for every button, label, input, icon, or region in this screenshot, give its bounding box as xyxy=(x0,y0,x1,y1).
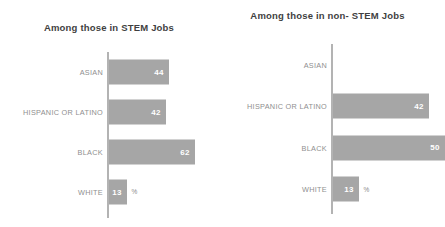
bar-value-label: 50 xyxy=(430,144,439,152)
chart-panel-non-stem: Among those in non- STEM Jobs ASIAN HISP… xyxy=(218,0,437,227)
bar-value-label: 62 xyxy=(180,148,189,156)
bar-container: 13 % xyxy=(109,180,138,205)
bar-row: HISPANIC OR LATINO 42 xyxy=(218,86,437,128)
bar-row: WHITE 13 % xyxy=(218,169,437,211)
category-label: HISPANIC OR LATINO xyxy=(228,102,327,111)
percent-suffix: % xyxy=(132,189,138,196)
bar: 42 xyxy=(333,94,429,119)
bar-value-label: 13 xyxy=(344,185,353,193)
bar-row: BLACK 62 xyxy=(0,132,218,172)
bar-value-label: 13 xyxy=(112,188,121,196)
category-label: WHITE xyxy=(0,188,103,197)
category-label: BLACK xyxy=(228,143,327,152)
chart-title-non-stem: Among those in non- STEM Jobs xyxy=(218,10,437,21)
bar: 50 xyxy=(333,135,445,160)
chart-title-stem: Among those in STEM Jobs xyxy=(0,22,218,33)
bar-container: 42 xyxy=(333,94,429,119)
bar-container: 62 xyxy=(109,140,195,165)
bar-value-label: 42 xyxy=(414,102,423,110)
bar-container: 42 xyxy=(109,100,166,125)
percent-suffix: % xyxy=(364,186,370,193)
category-label: HISPANIC OR LATINO xyxy=(0,108,103,117)
bar-value-label: 44 xyxy=(154,68,163,76)
bar-row: ASIAN xyxy=(218,44,437,86)
plot-area-non-stem: ASIAN HISPANIC OR LATINO 42 xyxy=(218,44,437,214)
bar: 13 xyxy=(333,177,359,202)
bar-container: 50 xyxy=(333,135,445,160)
bar-row: BLACK 50 xyxy=(218,127,437,169)
category-label: WHITE xyxy=(228,185,327,194)
bar: 62 xyxy=(109,140,195,165)
bar-container: 13 % xyxy=(333,177,370,202)
bar: 42 xyxy=(109,100,166,125)
plot-area-stem: ASIAN 44 HISPANIC OR LATINO 42 xyxy=(0,52,218,218)
bar-container: 44 xyxy=(109,60,169,85)
category-label: ASIAN xyxy=(228,60,327,69)
bar-row: HISPANIC OR LATINO 42 xyxy=(0,92,218,132)
category-label: BLACK xyxy=(0,148,103,157)
category-label: ASIAN xyxy=(0,68,103,77)
bar: 44 xyxy=(109,60,169,85)
bar-row: WHITE 13 % xyxy=(0,172,218,212)
bar: 13 xyxy=(109,180,127,205)
bar-row: ASIAN 44 xyxy=(0,52,218,92)
bar-value-label: 42 xyxy=(151,108,160,116)
chart-panel-stem: Among those in STEM Jobs ASIAN 44 HISPAN… xyxy=(0,0,218,227)
